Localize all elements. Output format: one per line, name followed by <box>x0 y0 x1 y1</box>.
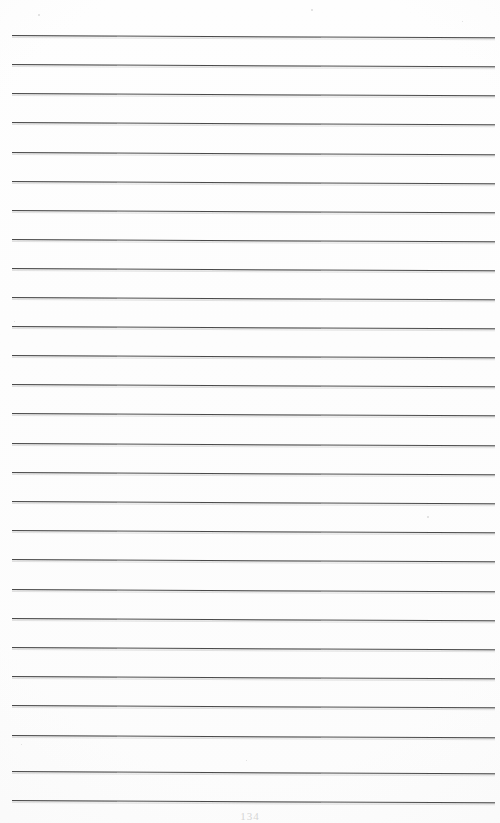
ruled-line <box>12 647 495 650</box>
ruled-line <box>12 152 495 155</box>
ruled-line <box>12 413 495 416</box>
ruled-line <box>12 705 495 708</box>
ruled-line <box>12 384 495 387</box>
ruled-line <box>12 771 495 774</box>
ruled-line <box>12 181 495 184</box>
ruled-line <box>12 122 495 125</box>
ruled-line <box>12 64 495 67</box>
ruled-line <box>12 93 495 96</box>
ruled-line <box>12 472 495 475</box>
ruled-line <box>12 800 495 803</box>
ruled-line <box>12 676 495 679</box>
ruled-line <box>12 297 495 300</box>
ruled-line <box>12 501 495 504</box>
ruled-line <box>12 559 495 562</box>
ruled-line <box>12 589 495 592</box>
ruled-line <box>12 530 495 533</box>
ruled-line <box>12 618 495 621</box>
ruled-line <box>12 239 495 242</box>
scanned-page: 134 <box>0 0 500 823</box>
ruled-line <box>12 268 495 271</box>
ruled-line <box>12 443 495 446</box>
ruled-line <box>12 355 495 358</box>
ruled-line <box>12 735 495 738</box>
ruled-line <box>12 35 495 38</box>
page-number: 134 <box>0 810 500 822</box>
ruled-line <box>12 210 495 213</box>
ruled-lines-layer <box>0 0 500 823</box>
ruled-line <box>12 326 495 329</box>
